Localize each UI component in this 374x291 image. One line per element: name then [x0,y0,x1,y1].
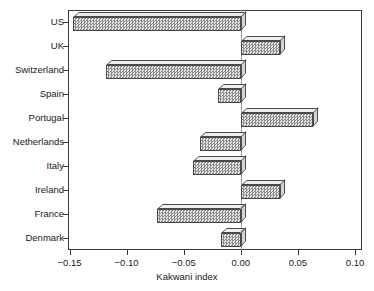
x-tick [184,250,185,255]
bar-italy [193,161,241,175]
y-tick [63,118,68,119]
x-tick [355,250,356,255]
bar-front-face [218,89,241,103]
bar-front-face [241,113,313,127]
y-tick [63,238,68,239]
y-tick [63,22,68,23]
bar-ireland [241,185,280,199]
y-axis-label-uk: UK [0,41,64,51]
y-axis-label-portugal: Portugal [0,113,64,123]
y-axis-label-us: US [0,17,64,27]
bar-denmark [221,233,240,247]
bar-front-face [241,41,280,55]
x-tick [241,250,242,255]
y-axis-label-spain: Spain [0,89,64,99]
y-axis-label-ireland: Ireland [0,185,64,195]
bar-front-face [193,161,241,175]
x-axis-title: Kakwani index [0,271,374,282]
y-axis-label-denmark: Denmark [0,233,64,243]
y-axis-label-netherlands: Netherlands [0,137,64,147]
y-axis-label-switzerland: Switzerland [0,65,64,75]
x-tick-label: 0.00 [221,257,261,268]
bar-netherlands [200,137,241,151]
y-tick [63,70,68,71]
y-tick [63,214,68,215]
bar-front-face [106,65,241,79]
bar-front-face [200,137,241,151]
bar-spain [218,89,241,103]
bar-uk [241,41,280,55]
kakwani-index-bar-chart: USUKSwitzerlandSpainPortugalNetherlandsI… [0,0,374,291]
bar-switzerland [106,65,241,79]
x-tick-label: −0.05 [164,257,204,268]
x-tick [298,250,299,255]
x-tick-label: −0.15 [50,257,90,268]
y-tick [63,94,68,95]
y-axis-labels: USUKSwitzerlandSpainPortugalNetherlandsI… [0,10,64,250]
x-tick-label: −0.10 [107,257,147,268]
x-tick [127,250,128,255]
x-tick-label: 0.05 [278,257,318,268]
bar-us [73,17,241,31]
bar-front-face [221,233,240,247]
y-axis-label-france: France [0,209,64,219]
y-axis-label-italy: Italy [0,161,64,171]
bar-front-face [157,209,240,223]
x-tick [70,250,71,255]
x-tick-label: 0.10 [335,257,374,268]
y-tick [63,190,68,191]
y-tick [63,142,68,143]
y-tick [63,46,68,47]
bar-portugal [241,113,313,127]
bar-front-face [241,185,280,199]
bar-france [157,209,240,223]
y-tick [63,166,68,167]
bar-front-face [73,17,241,31]
